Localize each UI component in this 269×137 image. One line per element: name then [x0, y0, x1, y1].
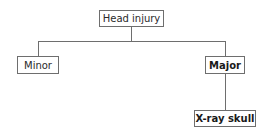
node-major: Major	[205, 56, 245, 74]
connector-major-to-xray	[225, 74, 226, 110]
node-minor: Minor	[17, 56, 59, 74]
node-head-injury: Head injury	[99, 10, 164, 27]
connector-root-down	[131, 26, 132, 41]
connector-to-minor	[38, 41, 39, 56]
connector-horizontal	[38, 41, 226, 42]
node-xray-skull: X-ray skull	[194, 110, 256, 127]
connector-to-major	[225, 41, 226, 56]
